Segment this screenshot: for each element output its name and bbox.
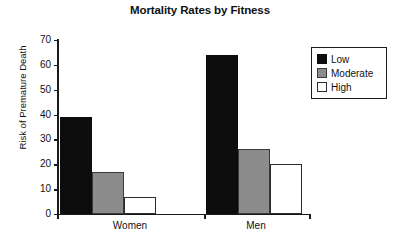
y-tick-label: 30 <box>40 133 51 144</box>
bar-men-moderate[interactable] <box>238 149 270 214</box>
chart-legend: LowModerateHigh <box>311 47 387 99</box>
bar-women-low[interactable] <box>60 117 92 214</box>
legend-label: Low <box>331 54 349 65</box>
x-tick-mark <box>204 214 206 219</box>
legend-swatch-icon-moderate <box>317 68 327 78</box>
legend-item-low[interactable]: Low <box>317 52 382 66</box>
legend-label: High <box>331 82 352 93</box>
y-axis-title: Risk of Premature Death <box>17 13 28 183</box>
y-tick-mark <box>54 65 58 66</box>
y-tick-mark <box>54 189 58 190</box>
legend-item-moderate[interactable]: Moderate <box>317 66 382 80</box>
legend-swatch-icon-low <box>317 54 327 64</box>
bar-women-high[interactable] <box>124 197 156 214</box>
bar-men-high[interactable] <box>270 164 302 214</box>
y-tick-label: 40 <box>40 109 51 120</box>
bar-chart: Mortality Rates by Fitness Risk of Prema… <box>0 0 400 250</box>
y-tick-mark <box>54 40 58 41</box>
legend-swatch-icon-high <box>317 82 327 92</box>
x-group-label-women: Women <box>90 220 170 231</box>
chart-title: Mortality Rates by Fitness <box>0 4 400 16</box>
y-tick-mark <box>54 139 58 140</box>
y-tick-mark <box>54 90 58 91</box>
x-group-label-men: Men <box>216 220 296 231</box>
y-tick-label: 60 <box>40 59 51 70</box>
y-tick-mark <box>54 164 58 165</box>
y-tick-mark <box>54 115 58 116</box>
y-tick-label: 20 <box>40 158 51 169</box>
y-tick-label: 0 <box>45 208 51 219</box>
bar-men-low[interactable] <box>206 55 238 214</box>
legend-label: Moderate <box>331 68 373 79</box>
plot-area: 010203040506070 <box>58 40 308 214</box>
y-tick-label: 50 <box>40 84 51 95</box>
bar-women-moderate[interactable] <box>92 172 124 214</box>
legend-item-high[interactable]: High <box>317 80 382 94</box>
x-tick-mark <box>309 214 311 219</box>
x-tick-mark <box>57 214 59 219</box>
y-tick-label: 70 <box>40 34 51 45</box>
y-tick-label: 10 <box>40 183 51 194</box>
